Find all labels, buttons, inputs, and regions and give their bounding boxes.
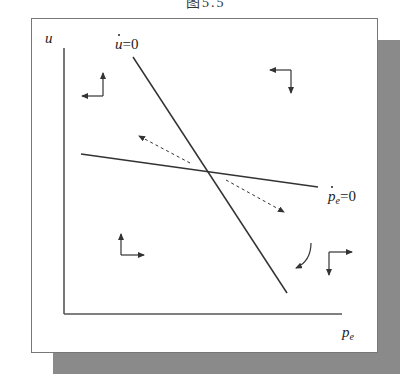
direction-arrows-upper-right xyxy=(270,70,291,93)
direction-arrows-lower-right xyxy=(329,252,352,275)
saddle-arrow-down-right xyxy=(226,180,284,212)
pe-dot-zero-label: pe=0 xyxy=(328,189,356,206)
u-dot-zero-label: u=0 xyxy=(115,37,138,52)
direction-arrows-lower-left xyxy=(121,234,144,255)
saddle-arrow-up-left xyxy=(139,136,190,163)
u-dot-zero-line xyxy=(133,57,287,293)
x-axis-label: pe xyxy=(342,325,354,342)
curved-arrow xyxy=(296,243,311,268)
direction-arrows-upper-left xyxy=(82,73,103,96)
y-axis-label: u xyxy=(45,31,53,46)
